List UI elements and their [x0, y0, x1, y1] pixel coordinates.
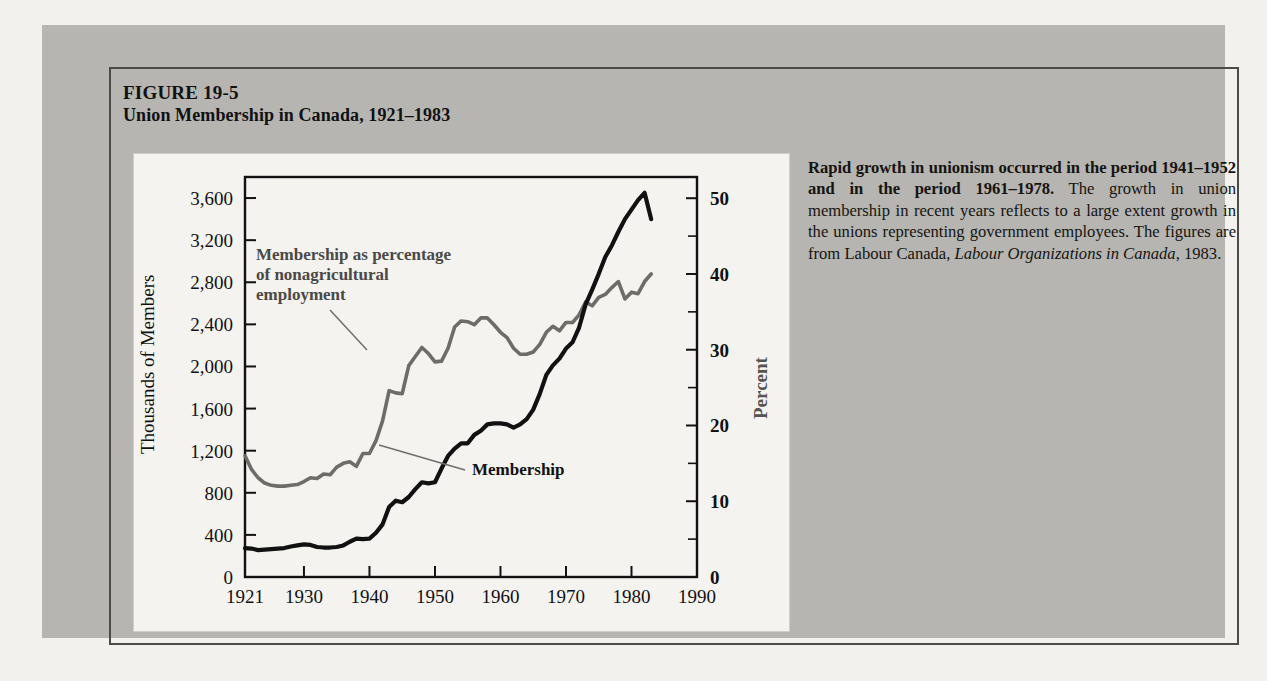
x-tick-label: 1970: [547, 586, 585, 607]
y-tick-label: 2,400: [190, 314, 233, 335]
figure-heading: FIGURE 19-5 Union Membership in Canada, …: [123, 81, 823, 127]
x-axis: 19211930194019501960197019801990: [226, 566, 716, 607]
figure-panel: FIGURE 19-5 Union Membership in Canada, …: [42, 25, 1225, 638]
y-tick-label-right: 10: [710, 491, 729, 512]
membership-label: Membership: [472, 460, 565, 479]
percent-label-line-1: Membership as percentage: [256, 245, 452, 264]
union-membership-line-chart: 04008001,2001,6002,0002,4002,8003,2003,6…: [134, 154, 789, 631]
x-tick-label: 1930: [285, 586, 323, 607]
y-tick-label: 800: [205, 483, 234, 504]
percent-series-annotation: Membership as percentage of nonagricultu…: [256, 245, 452, 350]
x-tick-label: 1921: [226, 586, 264, 607]
y-tick-label: 1,200: [190, 441, 233, 462]
caption-rest-2: , 1983.: [1176, 244, 1222, 263]
caption-source-title: Labour Organizations in Canada: [955, 244, 1176, 263]
y-tick-label: 400: [205, 525, 234, 546]
x-tick-label: 1950: [416, 586, 454, 607]
y-tick-label: 3,600: [190, 188, 233, 209]
y-tick-label-right: 50: [710, 188, 729, 209]
y-axis-title-right: Percent: [750, 356, 771, 419]
y-tick-label-right: 30: [710, 340, 729, 361]
y-tick-label: 1,600: [190, 399, 233, 420]
x-tick-label: 1940: [350, 586, 388, 607]
y-tick-label: 0: [224, 567, 234, 588]
y-tick-label: 2,000: [190, 356, 233, 377]
y-tick-label: 2,800: [190, 272, 233, 293]
percent-label-line-3: employment: [256, 285, 346, 304]
y-tick-label-right: 0: [710, 567, 720, 588]
membership-series-annotation: Membership: [379, 445, 565, 479]
figure-caption: Rapid growth in unionism occurred in the…: [808, 157, 1236, 264]
x-tick-label: 1990: [678, 586, 716, 607]
figure-title: Union Membership in Canada, 1921–1983: [123, 104, 823, 127]
percent-leader-line: [330, 310, 367, 350]
figure-number: FIGURE 19-5: [123, 81, 823, 104]
chart-card: 04008001,2001,6002,0002,4002,8003,2003,6…: [134, 154, 789, 631]
percent-label-line-2: of nonagricultural: [256, 265, 389, 284]
y-tick-label: 3,200: [190, 230, 233, 251]
plot-frame: [245, 177, 697, 577]
x-tick-label: 1960: [481, 586, 519, 607]
y-axis-title: Thousands of Members: [137, 275, 158, 454]
y-tick-label-right: 20: [710, 415, 729, 436]
right-axis: 01020304050: [686, 188, 729, 588]
x-tick-label: 1980: [612, 586, 650, 607]
y-tick-label-right: 40: [710, 264, 729, 285]
